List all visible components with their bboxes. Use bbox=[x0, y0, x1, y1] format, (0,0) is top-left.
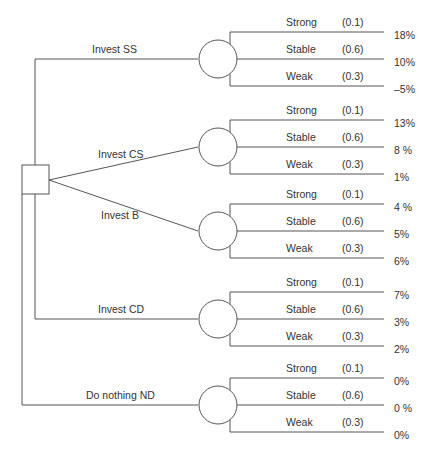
outcome-probability: (0.6) bbox=[342, 215, 364, 227]
outcome-value: 7% bbox=[394, 289, 409, 301]
chance-node bbox=[199, 128, 237, 166]
outcome-state: Weak bbox=[286, 330, 313, 342]
alt-label: Invest CS bbox=[98, 148, 144, 160]
outcome-value: 3% bbox=[394, 316, 409, 328]
outcome-probability: (0.3) bbox=[342, 70, 364, 82]
outcome-probability: (0.1) bbox=[342, 188, 364, 200]
outcome-value: –5% bbox=[394, 83, 415, 95]
outcome-value: 6% bbox=[394, 255, 409, 267]
outcome-state: Strong bbox=[286, 104, 317, 116]
outcome-probability: (0.3) bbox=[342, 242, 364, 254]
outcome-value: 0% bbox=[394, 429, 409, 441]
outcome-state: Weak bbox=[286, 70, 313, 82]
chance-node-group: Strong(0.1)13%Stable(0.6)8 %Weak(0.3)1% bbox=[199, 104, 415, 183]
outcome-probability: (0.3) bbox=[342, 416, 364, 428]
outcome-value: 2% bbox=[394, 343, 409, 355]
chance-node bbox=[199, 212, 237, 250]
outcome-value: 5% bbox=[394, 228, 409, 240]
outcome-state: Weak bbox=[286, 242, 313, 254]
alt-label: Invest B bbox=[101, 209, 139, 221]
alt-label: Do nothing ND bbox=[86, 389, 155, 401]
decision-node bbox=[22, 165, 49, 194]
outcome-state: Strong bbox=[286, 16, 317, 28]
outcome-value: 0% bbox=[394, 375, 409, 387]
outcome-state: Stable bbox=[286, 131, 316, 143]
outcome-probability: (0.3) bbox=[342, 330, 364, 342]
outcome-value: 1% bbox=[394, 171, 409, 183]
outcome-state: Stable bbox=[286, 43, 316, 55]
outcome-state: Stable bbox=[286, 389, 316, 401]
outcome-value: 13% bbox=[394, 117, 415, 129]
outcome-value: 0 % bbox=[394, 402, 412, 414]
outcome-probability: (0.1) bbox=[342, 362, 364, 374]
outcome-probability: (0.6) bbox=[342, 389, 364, 401]
outcome-probability: (0.6) bbox=[342, 43, 364, 55]
branch-invest-b bbox=[49, 180, 198, 231]
chance-node-group: Strong(0.1)18%Stable(0.6)10%Weak(0.3)–5% bbox=[199, 16, 415, 95]
chance-node-group: Strong(0.1)4 %Stable(0.6)5%Weak(0.3)6% bbox=[199, 188, 412, 267]
chance-node bbox=[199, 386, 237, 424]
chance-node bbox=[199, 300, 237, 338]
outcome-state: Strong bbox=[286, 188, 317, 200]
alt-label: Invest SS bbox=[92, 43, 137, 55]
chance-node-group: Strong(0.1)0%Stable(0.6)0 %Weak(0.3)0% bbox=[199, 362, 412, 441]
outcome-probability: (0.1) bbox=[342, 16, 364, 28]
outcome-value: 10% bbox=[394, 56, 415, 68]
outcome-value: 18% bbox=[394, 29, 415, 41]
outcome-state: Strong bbox=[286, 362, 317, 374]
outcome-probability: (0.1) bbox=[342, 104, 364, 116]
chance-node bbox=[199, 40, 237, 78]
outcome-state: Weak bbox=[286, 416, 313, 428]
outcome-probability: (0.6) bbox=[342, 303, 364, 315]
chance-node-group: Strong(0.1)7%Stable(0.6)3%Weak(0.3)2% bbox=[199, 276, 409, 355]
outcome-state: Weak bbox=[286, 158, 313, 170]
outcome-value: 8 % bbox=[394, 144, 412, 156]
alt-label: Invest CD bbox=[98, 303, 145, 315]
outcome-probability: (0.6) bbox=[342, 131, 364, 143]
decision-tree: Invest SS Invest CS Invest B Invest CD D… bbox=[0, 0, 427, 451]
outcome-value: 4 % bbox=[394, 201, 412, 213]
branch-do-nothing bbox=[22, 194, 198, 405]
outcome-probability: (0.3) bbox=[342, 158, 364, 170]
outcome-state: Stable bbox=[286, 303, 316, 315]
outcome-probability: (0.1) bbox=[342, 276, 364, 288]
outcome-state: Stable bbox=[286, 215, 316, 227]
outcome-state: Strong bbox=[286, 276, 317, 288]
